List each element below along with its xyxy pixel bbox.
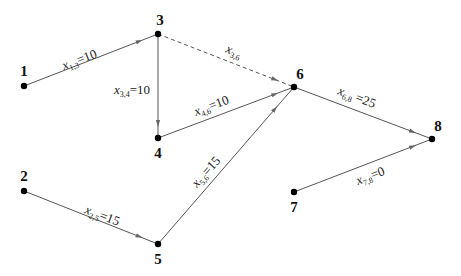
edge-label-4-6: x4,6=10 <box>191 92 232 121</box>
edge-label-1-3: x1,3=10 <box>59 46 100 75</box>
diagram-canvas: 12345678 x1,3=10x3,4=10x3,6x4,6=10x5,6=1… <box>0 0 461 276</box>
node-label-3: 3 <box>156 12 164 28</box>
arrowhead-icon <box>410 131 413 132</box>
node-label-2: 2 <box>20 168 28 184</box>
node-1 <box>21 83 27 89</box>
arrowhead-icon <box>272 79 275 80</box>
edge-label-3-4: x3,4=10 <box>113 82 150 99</box>
node-7 <box>291 189 297 195</box>
arrowhead-icon <box>137 41 140 42</box>
node-label-4: 4 <box>154 145 162 161</box>
network-flow-diagram: 12345678 x1,3=10x3,4=10x3,6x4,6=10x5,6=1… <box>0 0 461 276</box>
arrowhead-icon <box>137 236 140 237</box>
edge-label-2-5: x2,5=15 <box>81 201 122 230</box>
edge-label-3-6: x3,6 <box>222 40 244 62</box>
arrowhead-icon <box>410 146 413 147</box>
node-label-8: 8 <box>434 118 442 134</box>
node-6 <box>291 84 297 90</box>
node-3 <box>155 31 161 37</box>
arrowhead-icon <box>272 94 275 95</box>
node-label-6: 6 <box>296 66 304 82</box>
node-label-5: 5 <box>154 251 162 267</box>
node-8 <box>429 136 435 142</box>
node-label-1: 1 <box>20 63 28 79</box>
edge-label-6-8: x6,8 =25 <box>334 82 378 112</box>
arrowhead-icon <box>272 109 275 112</box>
node-label-7: 7 <box>290 199 298 215</box>
node-2 <box>21 188 27 194</box>
node-5 <box>155 241 161 247</box>
node-4 <box>155 135 161 141</box>
edge-labels-layer: x1,3=10x3,4=10x3,6x4,6=10x5,6=15x2,5=15x… <box>59 40 388 230</box>
